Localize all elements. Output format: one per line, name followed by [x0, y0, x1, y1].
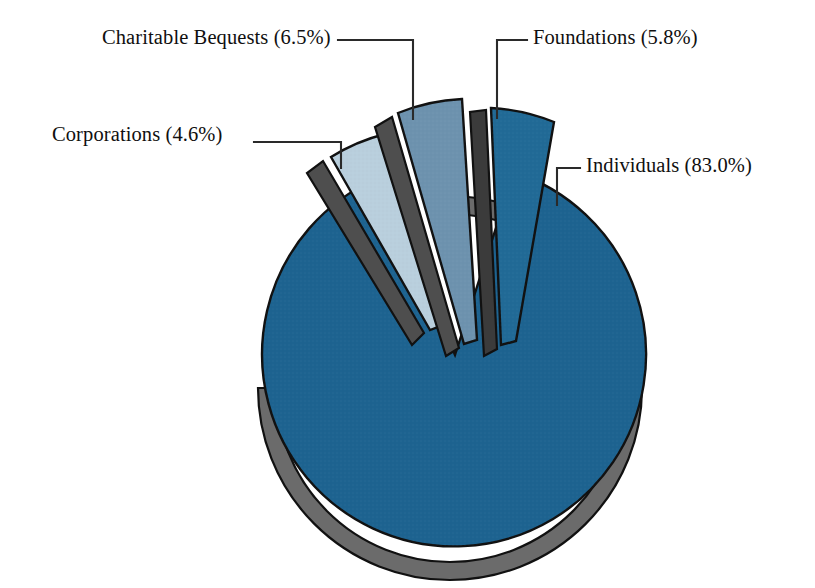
- leader-line-foundations: [497, 40, 527, 118]
- slice-label-corporations: Corporations (4.6%): [52, 123, 222, 146]
- pie-chart-canvas: [0, 0, 815, 588]
- slice-label-foundations: Foundations (5.8%): [533, 26, 698, 49]
- leader-line-charitable-bequests: [338, 40, 413, 119]
- pie-chart: Charitable Bequests (6.5%) Foundations (…: [0, 0, 815, 588]
- slice-label-charitable-bequests: Charitable Bequests (6.5%): [102, 26, 331, 49]
- slice-label-individuals: Individuals (83.0%): [586, 154, 752, 177]
- leader-line-corporations: [254, 142, 341, 168]
